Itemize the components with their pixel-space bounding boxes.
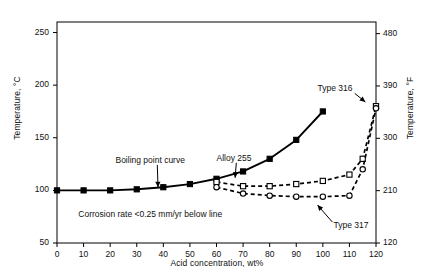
x-axis-tick-label: 90 [284,249,308,259]
data-point-marker [240,169,245,174]
x-axis-tick-label: 70 [231,249,255,259]
data-point-marker [161,185,166,190]
chart-annotation-1: Alloy 255 [217,153,252,163]
y-axis-right-tick-label: 300 [383,132,409,142]
data-point-marker [320,194,325,199]
data-point-marker [240,184,245,189]
y-axis-left-tick-label: 200 [23,79,49,89]
chart-annotation-0: Boiling point curve [115,155,184,165]
data-point-marker [294,137,299,142]
data-point-marker [294,194,299,199]
data-point-marker [187,181,192,186]
x-axis-tick-label: 100 [311,249,335,259]
x-axis-tick-label: 50 [178,249,202,259]
y-axis-left-tick-label: 50 [23,237,49,247]
data-point-marker [267,184,272,189]
y-axis-left-tick-label: 100 [23,184,49,194]
series-line-0 [57,112,323,191]
data-point-marker [360,167,365,172]
data-point-marker [267,193,272,198]
data-point-marker [81,188,86,193]
chart-annotation-2: Corrosion rate <0.25 mm/yr below line [78,209,222,219]
x-axis-tick-label: 120 [364,249,388,259]
x-axis-tick-label: 80 [258,249,282,259]
x-axis-tick-label: 0 [45,249,69,259]
y-axis-right-tick-label: 480 [383,28,409,38]
x-axis-tick-label: 110 [337,249,361,259]
y-axis-right-tick-label: 120 [383,237,409,247]
data-point-marker [347,193,352,198]
data-point-marker [320,178,325,183]
annotation-arrow-head [155,182,160,188]
data-point-marker [214,185,219,190]
data-point-marker [240,191,245,196]
x-axis-tick-label: 20 [98,249,122,259]
x-axis-tick-label: 40 [151,249,175,259]
chart-annotation-3: Type 316 [318,83,353,93]
data-point-marker [134,187,139,192]
chart-container: Temperature, °C Temperature, °F Acid con… [0,0,427,276]
chart-plot-area [0,0,427,276]
x-axis-title: Acid concentration, wt% [57,258,377,268]
data-point-marker [267,156,272,161]
x-axis-tick-label: 30 [125,249,149,259]
y-axis-right-tick-label: 210 [383,185,409,195]
data-point-marker [347,172,352,177]
x-axis-tick-label: 10 [72,249,96,259]
x-axis-tick-label: 60 [205,249,229,259]
data-point-marker [214,179,219,184]
data-point-marker [373,106,378,111]
y-axis-left-tick-label: 150 [23,132,49,142]
data-point-marker [294,181,299,186]
data-point-marker [320,109,325,114]
y-axis-right-tick-label: 390 [383,80,409,90]
data-point-marker [54,188,59,193]
chart-annotation-4: Type 317 [333,220,368,230]
data-point-marker [108,188,113,193]
y-axis-left-tick-label: 250 [23,27,49,37]
y-axis-left-title: Temperature, °C [12,63,22,153]
